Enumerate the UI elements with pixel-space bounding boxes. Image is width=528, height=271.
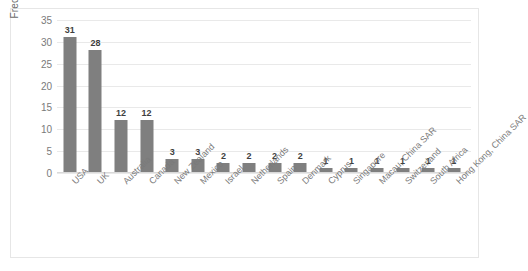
y-axis-tick-label: 15	[41, 102, 52, 113]
y-axis-tick-label: 30	[41, 36, 52, 47]
x-axis-label-slot: Singapore	[339, 177, 365, 263]
y-axis-tick-label: 10	[41, 124, 52, 135]
x-axis-labels: USAUKAustraliaCanadaNew ZealandMexicoIsr…	[57, 177, 471, 263]
x-axis-label-slot: Canada	[134, 177, 160, 263]
x-axis-label-slot: Spain	[262, 177, 288, 263]
x-axis-label-slot: Switzerland	[390, 177, 416, 263]
x-axis-label-slot: Macau, China SAR	[364, 177, 390, 263]
bar-slot: 12	[108, 20, 134, 172]
y-axis-tick-label: 35	[41, 15, 52, 26]
x-axis-label-slot: New Zealand	[159, 177, 185, 263]
x-axis-label-slot: Denmark	[287, 177, 313, 263]
x-axis-label-slot: USA	[57, 177, 83, 263]
bar-value-label: 28	[90, 38, 100, 48]
bar-slot: 31	[57, 20, 83, 172]
x-axis-label-slot: South Africa	[415, 177, 441, 263]
x-axis-label-slot: Hong Kong, China SAR	[441, 177, 467, 263]
bar-value-label: 3	[170, 147, 175, 157]
bar-slot: 1	[339, 20, 365, 172]
bar[interactable]	[63, 37, 76, 173]
bar-value-label: 31	[65, 25, 75, 35]
x-axis-label-slot: Mexico	[185, 177, 211, 263]
x-axis-label-slot: UK	[83, 177, 109, 263]
bar-slot: 3	[159, 20, 185, 172]
x-axis-label-slot: Israel	[211, 177, 237, 263]
bar[interactable]	[114, 120, 127, 172]
x-axis-label-slot: Australia	[108, 177, 134, 263]
bar-value-label: 12	[116, 108, 126, 118]
y-axis-tick-label: 0	[46, 168, 52, 179]
bar-value-label: 2	[298, 151, 303, 161]
bar-slot: 1	[364, 20, 390, 172]
y-axis-tick-label: 25	[41, 58, 52, 69]
bar-slot: 12	[134, 20, 160, 172]
bar-slot: 1	[313, 20, 339, 172]
y-axis-tick-label: 20	[41, 80, 52, 91]
bar-value-label: 2	[246, 151, 251, 161]
bar-slot: 28	[83, 20, 109, 172]
y-axis-tick-label: 5	[46, 146, 52, 157]
y-axis-title: Frequency	[9, 0, 23, 49]
chart-container: Frequency 05101520253035 312812123322221…	[10, 8, 479, 258]
bar-value-label: 2	[221, 151, 226, 161]
bar-value-label: 12	[142, 108, 152, 118]
bar-slot: 2	[236, 20, 262, 172]
bar[interactable]	[89, 50, 102, 172]
x-axis-label-slot: Cyprus	[313, 177, 339, 263]
bar-slot: 2	[287, 20, 313, 172]
x-axis-label-slot: Netherlands	[236, 177, 262, 263]
